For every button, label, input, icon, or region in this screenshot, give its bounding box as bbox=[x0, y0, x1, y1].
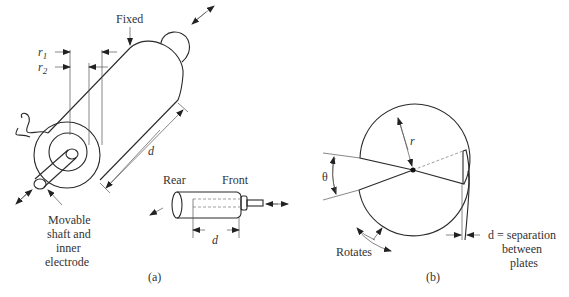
panel-a-coaxial-cylinder: r1 r2 Fixed d Movable shaft and inner el… bbox=[16, 6, 288, 284]
caption-a: (a) bbox=[148, 270, 161, 284]
caption-b: (b) bbox=[426, 270, 440, 284]
svg-text:r1: r1 bbox=[38, 45, 47, 61]
svg-text:Rear: Rear bbox=[163, 173, 186, 187]
svg-text:θ: θ bbox=[322, 170, 328, 184]
outer-cylinder bbox=[48, 32, 189, 180]
svg-text:r2: r2 bbox=[38, 60, 48, 76]
pivot-point bbox=[411, 168, 416, 173]
svg-text:between: between bbox=[502, 242, 542, 256]
svg-text:Front: Front bbox=[222, 173, 249, 187]
svg-text:inner: inner bbox=[56, 241, 81, 255]
side-view-sensor: Rear Front d bbox=[150, 173, 288, 247]
wire-1 bbox=[21, 113, 48, 133]
svg-text:d: d bbox=[148, 144, 155, 158]
panel-b-rotary-capacitor: θ r Rotates d = separation between plate… bbox=[322, 104, 556, 284]
svg-text:shaft and: shaft and bbox=[47, 227, 91, 241]
movable-shaft bbox=[34, 149, 78, 189]
svg-text:plates: plates bbox=[510, 256, 538, 270]
svg-text:electrode: electrode bbox=[45, 255, 89, 269]
fixed-label: Fixed bbox=[116, 12, 143, 26]
rotor-plate bbox=[360, 104, 470, 184]
svg-text:d: d bbox=[212, 233, 219, 247]
svg-text:d = separation: d = separation bbox=[488, 228, 556, 242]
svg-text:Rotates: Rotates bbox=[336, 245, 372, 259]
svg-text:Movable: Movable bbox=[48, 213, 91, 227]
svg-text:r: r bbox=[410, 134, 415, 148]
capacitive-sensor-diagram: r1 r2 Fixed d Movable shaft and inner el… bbox=[0, 0, 569, 297]
